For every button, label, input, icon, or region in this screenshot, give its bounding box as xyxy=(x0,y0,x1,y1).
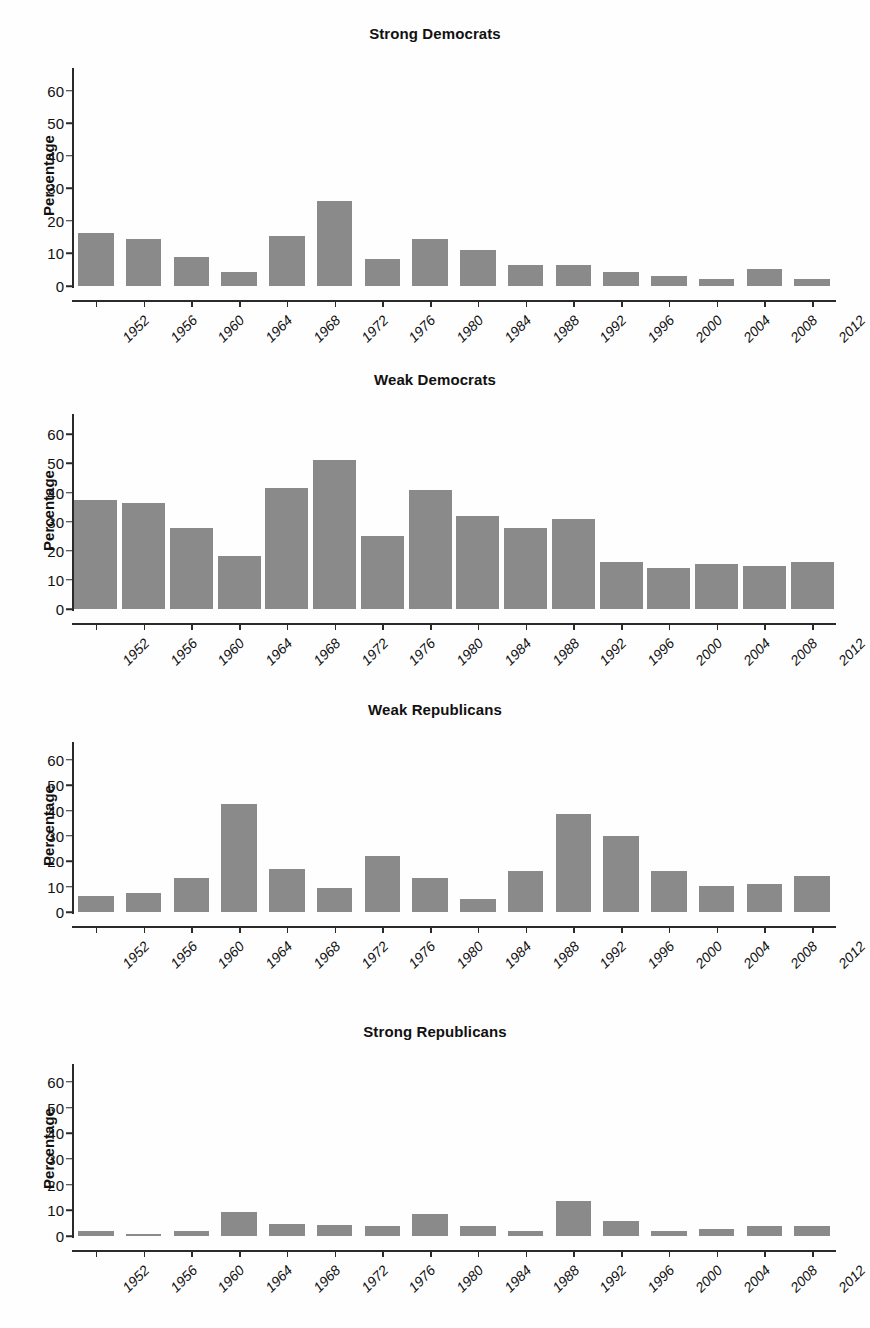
bar[interactable] xyxy=(743,566,786,609)
bar[interactable] xyxy=(794,876,829,912)
plot-area: Percentage010203040506019521956196019641… xyxy=(0,1064,870,1296)
bar[interactable] xyxy=(508,1231,543,1236)
bar[interactable] xyxy=(126,893,161,912)
x-tick-label: 1964 xyxy=(262,635,295,668)
x-tick-mark xyxy=(621,1250,623,1257)
x-tick-label: 1992 xyxy=(597,312,630,345)
x-tick-mark xyxy=(239,300,241,307)
bar[interactable] xyxy=(456,516,499,609)
x-tick-label: 1984 xyxy=(501,312,534,345)
bar[interactable] xyxy=(78,233,113,286)
bar[interactable] xyxy=(412,1214,447,1236)
bar[interactable] xyxy=(269,1224,304,1236)
x-tick-mark xyxy=(382,623,384,630)
bar[interactable] xyxy=(504,528,547,609)
x-tick-mark xyxy=(191,1250,193,1257)
bar[interactable] xyxy=(365,259,400,286)
x-tick-mark xyxy=(430,1250,432,1257)
bar[interactable] xyxy=(794,279,829,286)
y-tick-label: 40 xyxy=(47,484,64,501)
bar[interactable] xyxy=(365,1226,400,1236)
bar[interactable] xyxy=(78,1231,113,1236)
bar[interactable] xyxy=(221,272,256,286)
bar[interactable] xyxy=(603,1221,638,1236)
bar[interactable] xyxy=(412,239,447,286)
bar[interactable] xyxy=(699,1229,734,1236)
bar[interactable] xyxy=(508,265,543,286)
bar[interactable] xyxy=(74,500,117,609)
x-tick-mark xyxy=(335,926,337,933)
bar[interactable] xyxy=(695,564,738,609)
x-tick-label: 1964 xyxy=(262,1262,295,1295)
x-tick-label: 2004 xyxy=(740,312,773,345)
bar[interactable] xyxy=(126,1234,161,1236)
bar[interactable] xyxy=(317,888,352,912)
x-tick-label: 1992 xyxy=(597,635,630,668)
x-tick-mark xyxy=(144,1250,146,1257)
bar[interactable] xyxy=(313,460,356,609)
bar[interactable] xyxy=(556,265,591,286)
x-tick-label: 2008 xyxy=(788,312,821,345)
bar[interactable] xyxy=(747,1226,782,1236)
bar[interactable] xyxy=(651,871,686,912)
bar[interactable] xyxy=(361,536,404,609)
bar[interactable] xyxy=(699,279,734,286)
bar[interactable] xyxy=(603,272,638,286)
bar[interactable] xyxy=(126,239,161,286)
x-tick-label: 2004 xyxy=(740,635,773,668)
bar[interactable] xyxy=(412,878,447,912)
bar[interactable] xyxy=(508,871,543,912)
bar[interactable] xyxy=(556,1201,591,1236)
bar[interactable] xyxy=(747,884,782,912)
bar[interactable] xyxy=(791,562,834,609)
x-tick-mark xyxy=(191,300,193,307)
bar[interactable] xyxy=(170,528,213,609)
x-tick-label: 1996 xyxy=(644,635,677,668)
bar[interactable] xyxy=(460,899,495,912)
bar[interactable] xyxy=(269,869,304,912)
bar[interactable] xyxy=(221,804,256,912)
x-tick-mark xyxy=(669,300,671,307)
y-tick-label: 10 xyxy=(47,878,64,895)
y-tick-label: 50 xyxy=(47,1099,64,1116)
bar-series xyxy=(72,1064,836,1236)
bar[interactable] xyxy=(221,1212,256,1236)
x-tick-mark xyxy=(764,926,766,933)
bar[interactable] xyxy=(651,1231,686,1236)
bar[interactable] xyxy=(552,519,595,609)
bar[interactable] xyxy=(218,556,261,609)
y-tick-label: 60 xyxy=(47,751,64,768)
bar[interactable] xyxy=(556,814,591,912)
x-axis-line xyxy=(72,300,836,302)
y-tick-label: 10 xyxy=(47,245,64,262)
bar[interactable] xyxy=(317,1225,352,1236)
bar[interactable] xyxy=(747,269,782,286)
bar[interactable] xyxy=(174,878,209,912)
bar[interactable] xyxy=(603,836,638,912)
bar[interactable] xyxy=(78,896,113,912)
x-tick-mark xyxy=(812,300,814,307)
bar[interactable] xyxy=(365,856,400,912)
bar[interactable] xyxy=(174,1231,209,1236)
x-tick-label: 1980 xyxy=(453,938,486,971)
bar[interactable] xyxy=(122,503,165,609)
bar[interactable] xyxy=(265,488,308,609)
y-tick-label: 50 xyxy=(47,115,64,132)
x-tick-mark xyxy=(526,1250,528,1257)
bar[interactable] xyxy=(651,276,686,286)
bar[interactable] xyxy=(174,257,209,286)
x-axis-line xyxy=(72,623,836,625)
bar[interactable] xyxy=(647,568,690,609)
bar[interactable] xyxy=(269,236,304,286)
bar[interactable] xyxy=(460,1226,495,1236)
x-tick-label: 1996 xyxy=(644,1262,677,1295)
bar[interactable] xyxy=(460,250,495,286)
bar[interactable] xyxy=(317,201,352,286)
bar[interactable] xyxy=(409,490,452,609)
bar[interactable] xyxy=(699,886,734,912)
y-tick-label: 50 xyxy=(47,777,64,794)
x-tick-mark xyxy=(764,1250,766,1257)
bar[interactable] xyxy=(600,562,643,609)
bar[interactable] xyxy=(794,1226,829,1236)
x-tick-mark xyxy=(335,1250,337,1257)
